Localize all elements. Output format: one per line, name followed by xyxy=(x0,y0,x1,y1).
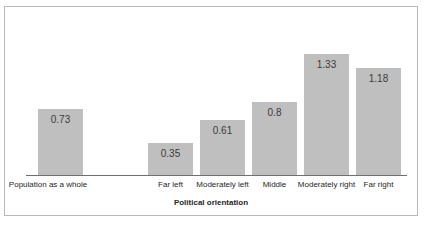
bar-moderately-right[interactable]: 1.33 xyxy=(304,54,349,175)
x-tick-label-population-as-a-whole: Population as a whole xyxy=(0,179,103,190)
bar-value-label: 0.73 xyxy=(38,114,83,126)
bar-moderately-left[interactable]: 0.61 xyxy=(200,120,245,175)
bar-far-right[interactable]: 1.18 xyxy=(356,68,401,175)
bar-population-as-a-whole[interactable]: 0.73 xyxy=(38,109,83,175)
x-axis-line xyxy=(26,175,407,176)
chart-screenshot: 0.73 0.35 0.61 0.8 1.33 1.18 Population … xyxy=(0,0,427,225)
bar-value-label: 0.35 xyxy=(148,148,193,160)
bar-value-label: 1.18 xyxy=(356,73,401,85)
bar-value-label: 0.8 xyxy=(252,107,297,119)
bar-middle[interactable]: 0.8 xyxy=(252,102,297,175)
x-tick-label-moderately-left: Moderately left xyxy=(183,179,262,190)
x-tick-label-far-right: Far right xyxy=(354,179,403,190)
bar-value-label: 0.61 xyxy=(200,125,245,137)
chart-frame: 0.73 0.35 0.61 0.8 1.33 1.18 Population … xyxy=(4,6,418,216)
bar-far-left[interactable]: 0.35 xyxy=(148,143,193,175)
x-axis-title: Political orientation xyxy=(5,197,417,208)
plot-area: 0.73 0.35 0.61 0.8 1.33 1.18 Population … xyxy=(5,7,417,215)
bar-value-label: 1.33 xyxy=(304,59,349,71)
